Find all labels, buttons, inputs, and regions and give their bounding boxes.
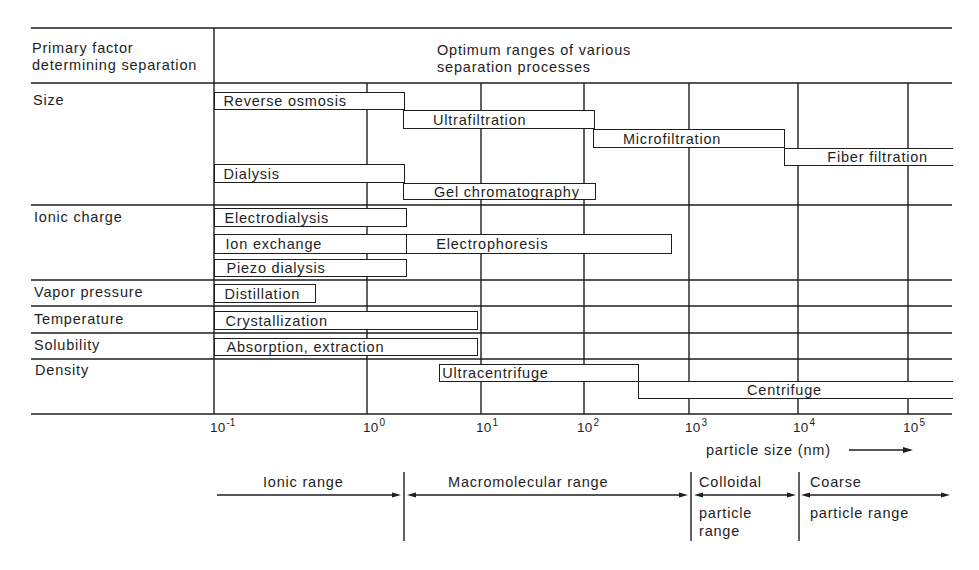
process-bar-absorption-extraction: Absorption, extraction: [214, 338, 478, 356]
tick-base: 10: [685, 420, 700, 435]
process-bar-piezo-dialysis: Piezo dialysis: [214, 259, 407, 277]
process-bar-electrophoresis: Electrophoresis: [406, 234, 672, 254]
factor-column-header-line1: Primary factor: [32, 40, 133, 56]
process-bar-centrifuge: Centrifuge: [638, 381, 954, 399]
x-tick-label: 105: [903, 420, 925, 437]
tick-base: 10: [476, 420, 491, 435]
process-label: Absorption, extraction: [227, 339, 385, 355]
coarse-range-title: Coarse: [810, 474, 862, 490]
ionic-range-title: Ionic range: [263, 474, 344, 490]
x-tick-label: 102: [577, 420, 599, 437]
factor-column-header-line2: determining separation: [32, 57, 197, 73]
process-label: Ultrafiltration: [433, 111, 526, 128]
process-label: Microfiltration: [623, 130, 721, 147]
factor-label-ionic-charge: Ionic charge: [34, 209, 123, 225]
tick-exponent: 5: [919, 417, 925, 428]
process-label: Electrodialysis: [225, 209, 330, 226]
x-axis-label: particle size (nm): [706, 442, 831, 458]
x-tick-label: 103: [685, 420, 707, 437]
tick-exponent: 4: [809, 417, 815, 428]
tick-exponent: 0: [379, 417, 385, 428]
x-tick-label: 100: [363, 420, 385, 437]
x-tick-label: 101: [476, 420, 498, 437]
factor-label-size: Size: [33, 92, 64, 108]
tick-base: 10: [577, 420, 592, 435]
process-bar-gel-chromatography: Gel chromatography: [403, 183, 596, 200]
tick-exponent: 1: [492, 417, 498, 428]
factor-label-solubility: Solubility: [34, 337, 100, 353]
tick-base: 10: [363, 420, 378, 435]
process-bar-distillation: Distillation: [214, 284, 316, 303]
process-label: Fiber filtration: [827, 149, 928, 165]
process-label: Centrifuge: [747, 382, 822, 398]
process-label: Reverse osmosis: [224, 93, 347, 109]
factor-label-vapor-pressure: Vapor pressure: [34, 284, 143, 300]
tick-exponent: -1: [226, 417, 235, 428]
process-label: Piezo dialysis: [227, 260, 326, 276]
process-bar-ultrafiltration: Ultrafiltration: [403, 110, 594, 129]
process-bar-ultracentrifuge: Ultracentrifuge: [439, 364, 639, 382]
process-bar-reverse-osmosis: Reverse osmosis: [214, 92, 405, 110]
process-bar-ion-exchange: Ion exchange: [214, 234, 407, 254]
process-label: Dialysis: [224, 165, 280, 182]
colloidal-range-subtitle-line1: particle: [699, 505, 752, 521]
tick-base: 10: [903, 420, 918, 435]
process-label: Distillation: [225, 285, 301, 302]
process-column-header-line2: separation processes: [437, 59, 591, 75]
factor-label-density: Density: [35, 362, 89, 378]
tick-exponent: 2: [593, 417, 599, 428]
x-tick-label: 10-1: [210, 420, 235, 437]
process-label: Gel chromatography: [434, 184, 580, 199]
tick-exponent: 3: [701, 417, 707, 428]
process-label: Ion exchange: [226, 235, 323, 253]
process-column-header-line1: Optimum ranges of various: [437, 42, 631, 58]
process-label: Crystallization: [226, 312, 328, 329]
separation-processes-figure: Primary factor determining separation Op…: [0, 0, 979, 570]
factor-label-temperature: Temperature: [34, 311, 124, 327]
process-label: Electrophoresis: [436, 235, 548, 253]
coarse-range-subtitle: particle range: [810, 505, 909, 521]
tick-base: 10: [793, 420, 808, 435]
colloidal-range-title: Colloidal: [699, 474, 762, 490]
macromolecular-range-title: Macromolecular range: [448, 474, 608, 490]
process-bar-electrodialysis: Electrodialysis: [214, 208, 407, 227]
process-label: Ultracentrifuge: [442, 365, 548, 381]
process-bar-dialysis: Dialysis: [214, 164, 405, 183]
process-bar-microfiltration: Microfiltration: [593, 129, 785, 148]
process-bar-crystallization: Crystallization: [214, 311, 478, 330]
colloidal-range-subtitle-line2: range: [699, 523, 740, 539]
tick-base: 10: [210, 420, 225, 435]
process-bar-fiber-filtration: Fiber filtration: [784, 148, 954, 166]
x-tick-label: 104: [793, 420, 815, 437]
